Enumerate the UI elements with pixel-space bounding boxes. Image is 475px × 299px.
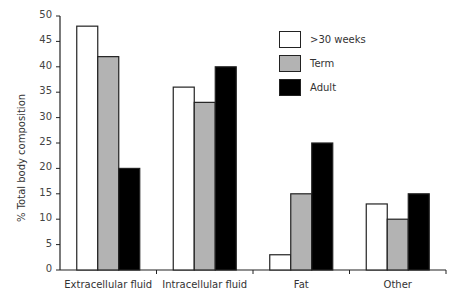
- legend-label: >30 weeks: [310, 34, 366, 45]
- x-category-label: Other: [348, 279, 448, 290]
- x-category-label: Fat: [251, 279, 351, 290]
- bar-30-weeks: [366, 204, 387, 270]
- y-tick-label: 45: [32, 34, 52, 45]
- bar-30-weeks: [173, 87, 194, 270]
- bar-term: [194, 102, 215, 270]
- legend-swatch: [279, 31, 301, 48]
- body-composition-chart: % Total body composition 051015202530354…: [0, 0, 475, 299]
- plot-area: [0, 0, 475, 299]
- bar-adult: [408, 194, 429, 270]
- y-tick-label: 50: [32, 9, 52, 20]
- y-tick-label: 25: [32, 136, 52, 147]
- y-tick-label: 30: [32, 111, 52, 122]
- bar-adult: [119, 168, 140, 270]
- legend-label: Term: [310, 58, 334, 69]
- bar-adult: [312, 143, 333, 270]
- bar-30-weeks: [77, 26, 98, 270]
- y-tick-label: 0: [32, 263, 52, 274]
- legend-swatch: [279, 55, 301, 72]
- bar-adult: [215, 67, 236, 270]
- y-axis-label: % Total body composition: [16, 94, 27, 222]
- y-tick-label: 5: [32, 238, 52, 249]
- legend-item: Term: [279, 55, 334, 72]
- y-tick-label: 40: [32, 60, 52, 71]
- y-tick-label: 10: [32, 212, 52, 223]
- bar-term: [387, 219, 408, 270]
- x-category-label: Extracellular fluid: [58, 279, 158, 290]
- y-tick-label: 20: [32, 161, 52, 172]
- bar-term: [291, 194, 312, 270]
- bar-30-weeks: [270, 255, 291, 270]
- legend-item: Adult: [279, 79, 336, 96]
- bar-term: [98, 57, 119, 270]
- y-tick-label: 15: [32, 187, 52, 198]
- legend-swatch: [279, 79, 301, 96]
- x-category-label: Intracellular fluid: [155, 279, 255, 290]
- y-tick-label: 35: [32, 85, 52, 96]
- legend-item: >30 weeks: [279, 31, 366, 48]
- legend-label: Adult: [310, 82, 336, 93]
